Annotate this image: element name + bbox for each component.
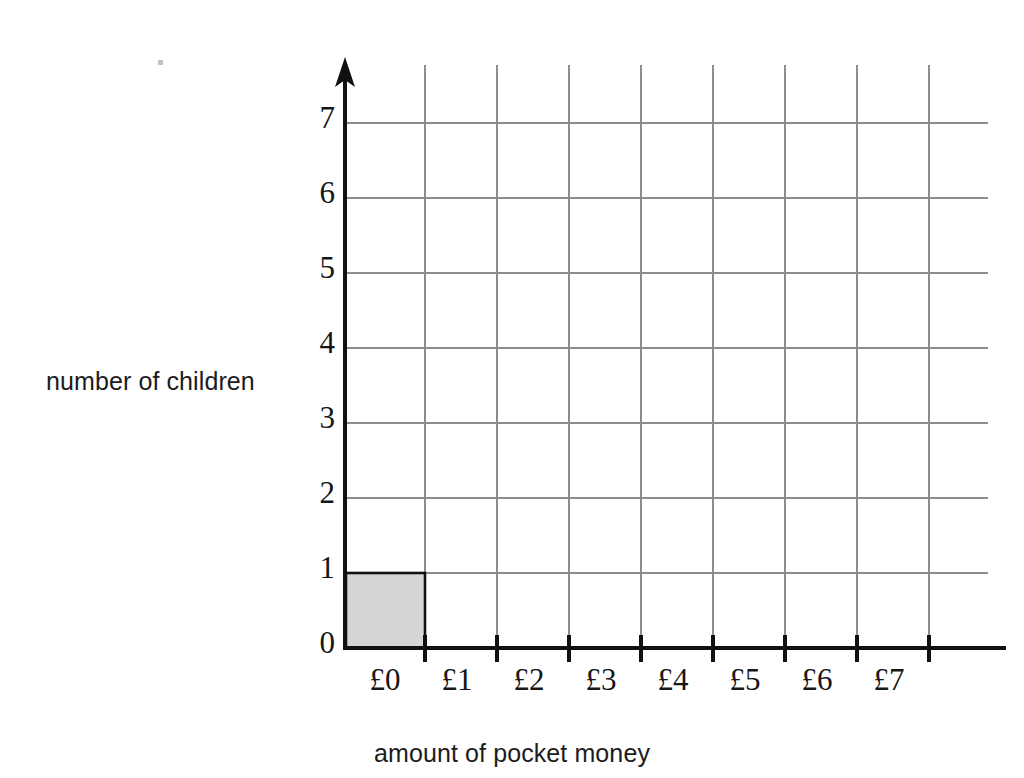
bar-pound0: [346, 573, 425, 648]
vertical-gridlines: [425, 65, 929, 648]
scan-artifact-speck: [158, 60, 163, 65]
horizontal-gridlines: [345, 123, 988, 573]
pocket-money-bar-chart: number of children amount of pocket mone…: [0, 0, 1024, 778]
plot-area: [0, 0, 1024, 778]
